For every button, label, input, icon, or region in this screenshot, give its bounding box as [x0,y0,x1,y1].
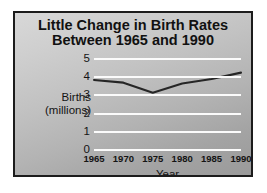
x-tick-label-1990: 1990 [230,154,251,164]
y-tick-label-5: 5 [84,53,90,65]
gridline-y-4 [94,76,241,78]
plot-area: 543210196519701975198019851990 [94,59,241,150]
x-axis-title: Year [94,168,241,177]
x-tick-label-1970: 1970 [113,154,134,164]
y-tick-label-3: 3 [84,90,90,102]
chart-frame: Little Change in Birth Rates Between 196… [13,11,253,177]
x-tick-label-1985: 1985 [201,154,222,164]
chart-title-line-2: Between 1965 and 1990 [15,33,251,48]
gridline-y-1 [94,131,241,133]
y-tick-label-2: 2 [84,108,90,120]
x-tick-label-1975: 1975 [142,154,163,164]
gridline-y-0 [94,149,241,151]
chart-title: Little Change in Birth Rates Between 196… [15,18,251,48]
birth-rate-line-series [94,59,241,150]
y-tick-label-4: 4 [84,71,90,83]
gridline-y-5 [94,58,241,60]
gridline-y-2 [94,113,241,115]
chart-title-line-1: Little Change in Birth Rates [15,18,251,33]
y-tick-label-1: 1 [84,126,90,138]
x-tick-label-1980: 1980 [172,154,193,164]
y-axis-title-line-1: Births [19,91,91,104]
gridline-y-3 [94,94,241,96]
x-tick-label-1965: 1965 [83,154,104,164]
chart-figure: Little Change in Birth Rates Between 196… [0,0,267,193]
y-axis-title-line-2: (millions) [19,104,91,117]
y-axis-title: Births (millions) [19,91,91,117]
